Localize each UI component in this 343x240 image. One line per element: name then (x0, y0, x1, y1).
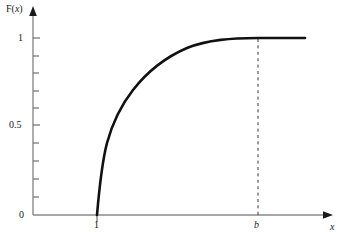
x-tick-label-1: 1 (94, 220, 99, 230)
y-axis-title: F(x) (6, 4, 23, 14)
y-tick-label-0-5: 0.5 (9, 120, 22, 130)
x-axis-arrowhead (323, 211, 333, 219)
y-axis-title-suffix: ) (19, 3, 22, 14)
plot-canvas (0, 0, 343, 240)
y-tick-label-1: 1 (18, 33, 23, 43)
x-axis-title-variable: x (330, 221, 334, 232)
x-tick-label-b: b (254, 220, 259, 230)
y-axis-title-prefix: F( (6, 3, 15, 14)
y-axis-arrowhead (29, 6, 37, 16)
x-axis-title: x (330, 222, 334, 232)
origin-label: 0 (19, 210, 24, 220)
y-axis-minor-ticks (33, 38, 40, 197)
cdf-figure: F(x) 1 0.5 0 1 b x (0, 0, 343, 240)
cdf-curve (97, 38, 305, 215)
